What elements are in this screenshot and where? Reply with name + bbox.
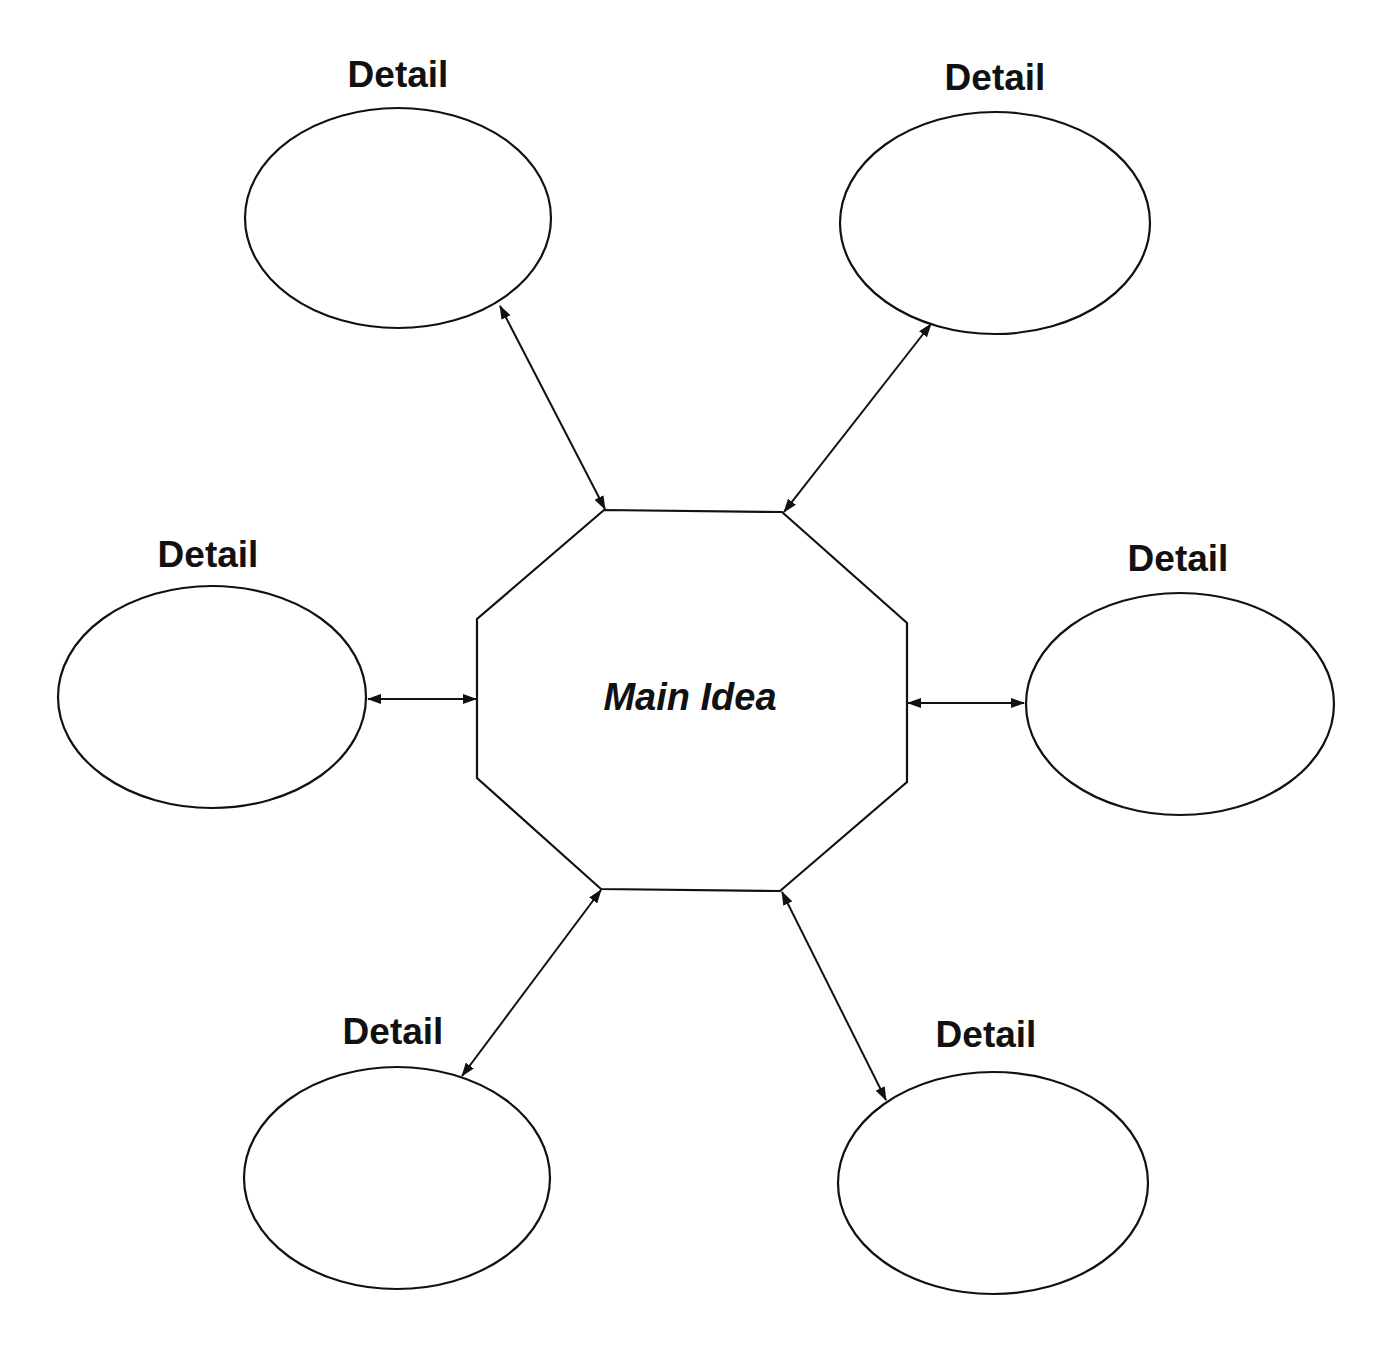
detail-label-bottom-left: Detail [343, 1013, 444, 1050]
detail-ellipse-left [58, 586, 366, 808]
double-arrow-connector-bottom-left [462, 890, 601, 1076]
detail-ellipse-bottom-right [838, 1072, 1148, 1294]
double-arrow-connector-top-right [784, 324, 931, 512]
detail-label-left: Detail [158, 536, 259, 573]
detail-ellipse-top-left [245, 108, 551, 328]
detail-label-bottom-right: Detail [936, 1016, 1037, 1053]
idea-web-diagram: Main Idea DetailDetailDetailDetailDetail… [0, 0, 1386, 1354]
detail-ellipse-right [1026, 593, 1334, 815]
main-idea-label: Main Idea [603, 678, 776, 716]
detail-label-right: Detail [1128, 540, 1229, 577]
double-arrow-connector-bottom-right [782, 892, 886, 1100]
detail-ellipse-bottom-left [244, 1067, 550, 1289]
detail-label-top-right: Detail [945, 59, 1046, 96]
detail-ellipse-top-right [840, 112, 1150, 334]
detail-label-top-left: Detail [348, 56, 449, 93]
double-arrow-connector-top-left [500, 306, 605, 509]
